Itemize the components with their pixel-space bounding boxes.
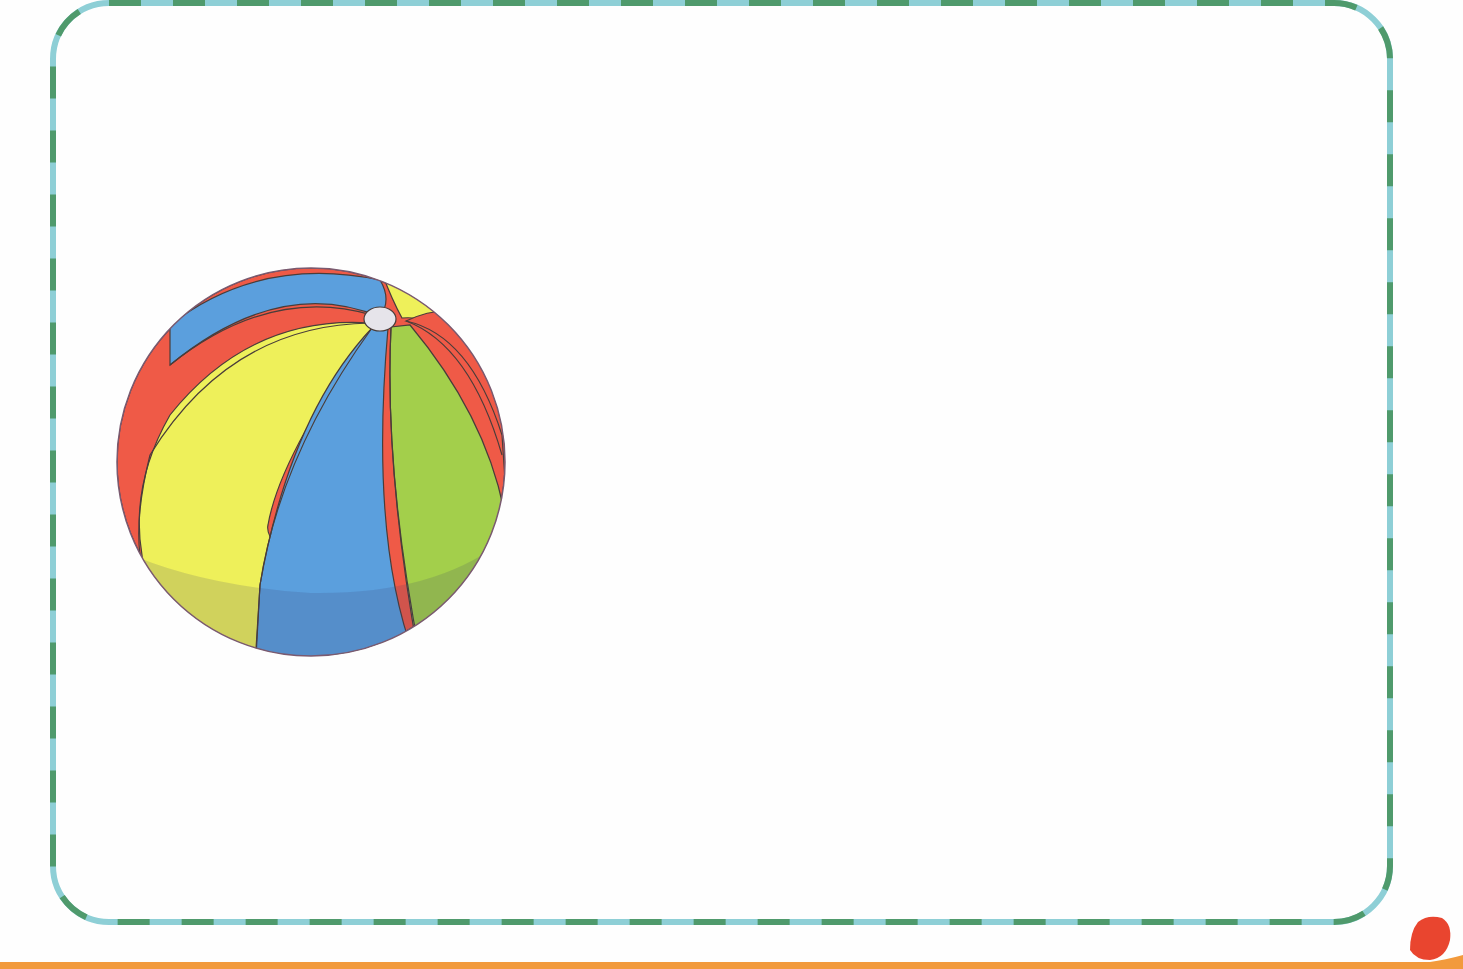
- bottom-orange-strip: [0, 962, 1463, 969]
- worksheet-page: beach ball: [0, 0, 1463, 969]
- beach-ball-image: [110, 255, 510, 665]
- corner-red-shape: [1380, 900, 1463, 969]
